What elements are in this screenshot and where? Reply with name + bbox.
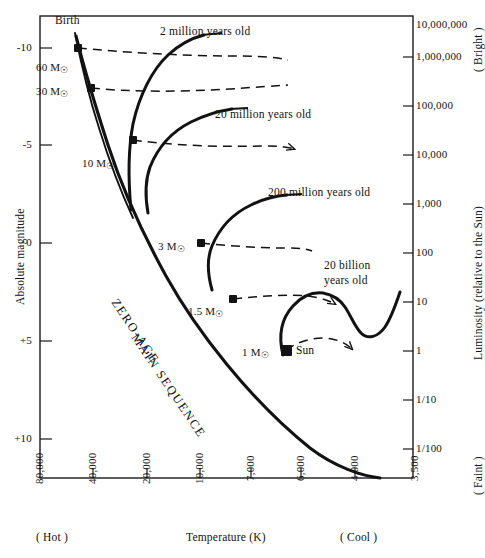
sun-symbol-icon: ☉ <box>60 65 68 75</box>
right-tick-1: 1 <box>416 344 422 356</box>
mass-label-1p5: 1.5 M☉ <box>188 305 223 319</box>
mass-label-3: 3 M☉ <box>158 240 185 254</box>
mass-label-60-text: 60 M <box>36 61 60 73</box>
mass-label-10-text: 10 M <box>82 157 106 169</box>
bottom-axis-title: Temperature (K) <box>186 531 266 543</box>
right-tick-1e5: 100,000 <box>416 99 453 111</box>
right-tick-hundredth: 1/100 <box>416 442 442 454</box>
mass-label-1-text: 1 M <box>242 346 261 358</box>
mass-label-1p5-text: 1.5 M <box>188 305 215 317</box>
mass-dot-10 <box>129 136 137 144</box>
sun-symbol-icon: ☉ <box>215 309 223 319</box>
left-axis-title: Absolute magnitude <box>14 208 26 305</box>
annotation-20gyr-line2: years old <box>324 273 368 287</box>
bottom-tick-7000: 7,000 <box>244 455 256 481</box>
mass-dot-1-sun <box>281 345 292 356</box>
mass-label-3-text: 3 M <box>158 240 177 252</box>
bottom-tick-20000: 20,000 <box>140 453 152 484</box>
right-axis-faint-note: ( Faint ) <box>472 456 484 495</box>
bottom-tick-80000: 80,000 <box>33 453 45 484</box>
annotation-2myr: 2 million years old <box>160 24 250 38</box>
annotation-200myr: 200 million years old <box>268 185 370 199</box>
right-tick-1e7: 10,000,000 <box>416 18 468 30</box>
mass-label-30-text: 30 M <box>36 85 60 97</box>
bottom-tick-10000: 10,000 <box>193 453 205 484</box>
right-tick-1e4: 10,000 <box>416 148 447 160</box>
right-tick-1e3: 1,000 <box>416 197 442 209</box>
sun-symbol-icon: ☉ <box>60 89 68 99</box>
annotation-birth: Birth <box>55 13 80 27</box>
mass-label-1: 1 M☉ <box>242 346 269 360</box>
right-tick-10: 10 <box>416 295 427 307</box>
sun-symbol-icon: ☉ <box>261 350 269 360</box>
bottom-tick-4000: 4,000 <box>348 455 360 481</box>
annotation-20gyr-line1: 20 billion <box>324 258 370 272</box>
mass-dot-1p5 <box>229 295 237 303</box>
bottom-tick-40000: 40,000 <box>86 453 98 484</box>
right-axis-title: Luminosity (relative to the Sun) <box>472 206 484 360</box>
left-tick-minus5: -5 <box>0 138 32 150</box>
left-tick-minus10: -10 <box>0 41 32 53</box>
left-tick-zero: 0 <box>0 236 32 248</box>
left-tick-plus5: +5 <box>0 334 32 346</box>
mass-dot-3 <box>197 239 205 247</box>
mass-dot-60 <box>74 44 82 52</box>
sun-label: Sun <box>296 344 314 356</box>
bottom-tick-6000: 6,000 <box>294 455 306 481</box>
sun-symbol-icon: ☉ <box>177 244 185 254</box>
hr-diagram: Absolute magnitude -10 -5 0 +5 +10 10,00… <box>0 0 485 558</box>
annotation-20myr: 20 million years old <box>215 107 311 121</box>
plot-frame <box>40 16 413 478</box>
mass-label-60: 60 M☉ <box>36 61 69 75</box>
mass-label-10: 10 M☉ <box>82 157 115 171</box>
mass-dot-30 <box>87 84 95 92</box>
mass-label-30: 30 M☉ <box>36 85 69 99</box>
right-tick-1e2: 100 <box>416 246 433 258</box>
bottom-tick-3500: 3,500 <box>408 455 420 481</box>
bottom-axis-hot-note: ( Hot ) <box>36 531 68 543</box>
bottom-axis-cool-note: ( Cool ) <box>340 531 377 543</box>
right-tick-tenth: 1/10 <box>416 393 436 405</box>
right-tick-1e6: 1,000,000 <box>416 50 462 62</box>
sun-symbol-icon: ☉ <box>106 161 114 171</box>
right-axis-bright-note: ( Bright ) <box>472 27 484 72</box>
left-tick-plus10: +10 <box>0 432 32 444</box>
